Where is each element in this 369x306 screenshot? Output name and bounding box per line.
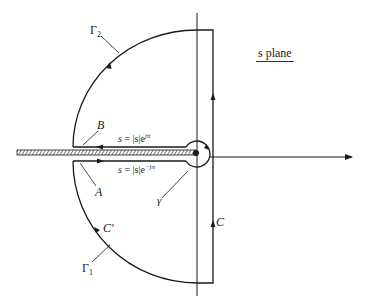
label-B: B	[97, 119, 104, 131]
leader-A	[80, 163, 96, 186]
arc-gamma2	[73, 30, 197, 147]
equation-lower-cut: s = |s|e−jπ	[118, 164, 155, 175]
label-A: A	[95, 186, 102, 198]
diagram-canvas	[0, 0, 369, 306]
origin-branch-point	[193, 150, 199, 156]
arrow-A	[97, 159, 104, 164]
leader-gamma2	[101, 36, 119, 53]
s-plane-label: s plane	[256, 47, 294, 62]
arrow-B	[96, 145, 103, 150]
equation-upper-cut: s = |s|ejπ	[118, 133, 150, 144]
label-C-prime: C′	[103, 222, 114, 234]
arrow-C-lower	[211, 220, 216, 227]
s-plane-contour-diagram: Γ2 B A C′ Γ1 C γ s = |s|ejπ s = |s|e−jπ …	[0, 0, 369, 306]
leader-small-gamma	[162, 171, 188, 198]
leader-gamma1	[92, 245, 110, 262]
label-gamma2: Γ2	[90, 24, 101, 39]
label-C: C	[216, 216, 224, 228]
label-gamma1: Γ1	[82, 262, 93, 277]
label-small-gamma: γ	[157, 195, 161, 206]
leader-B	[83, 131, 98, 145]
branch-cut	[17, 150, 196, 155]
arrow-C-upper	[211, 93, 216, 100]
